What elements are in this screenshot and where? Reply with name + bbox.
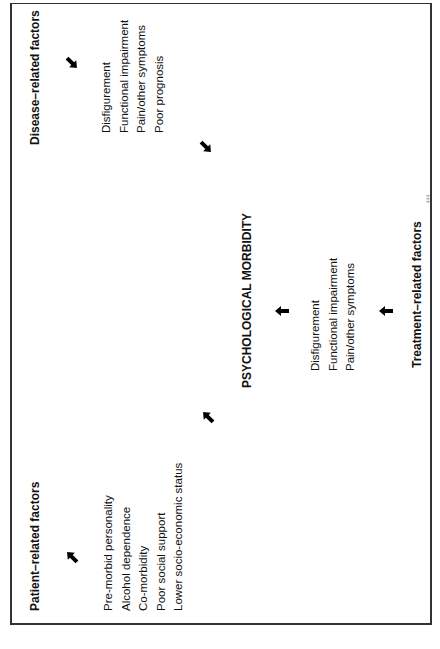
disease-factors-title: Disease–related factors bbox=[28, 10, 42, 145]
disease-factor-item: Pain/other symptoms bbox=[133, 20, 151, 133]
disease-factor-item: Disfigurement bbox=[98, 20, 116, 133]
disease-factors-list: Disfigurement Functional impairment Pain… bbox=[98, 20, 168, 133]
page-number: 444 bbox=[425, 195, 431, 203]
disease-factor-item: Functional impairment bbox=[116, 20, 134, 133]
patient-factor-item: Alcohol dependence bbox=[118, 463, 136, 611]
arrow-to-center-icon bbox=[274, 303, 290, 319]
treatment-factor-item: Pain/other symptoms bbox=[342, 258, 360, 371]
patient-factor-item: Pre-morbid personality bbox=[100, 463, 118, 611]
arrow-disease-to-center-icon bbox=[198, 139, 214, 155]
patient-factor-item: Poor social support bbox=[153, 463, 171, 611]
arrow-disease-down-icon bbox=[64, 55, 80, 71]
patient-factor-item: Lower socio-economic status bbox=[170, 463, 188, 611]
patient-factors-list: Pre-morbid personality Alcohol dependenc… bbox=[100, 463, 188, 611]
patient-factor-item: Co-morbidity bbox=[135, 463, 153, 611]
disease-factor-item: Poor prognosis bbox=[151, 20, 169, 133]
treatment-factor-item: Functional impairment bbox=[325, 258, 343, 371]
treatment-factor-item: Disfigurement bbox=[307, 258, 325, 371]
patient-factors-title: Patient–related factors bbox=[28, 482, 42, 611]
treatment-factors-title: Treatment–related factors bbox=[410, 221, 424, 368]
psychological-morbidity-title: PSYCHOLOGICAL MORBIDITY bbox=[240, 213, 254, 388]
treatment-factors-list: Disfigurement Functional impairment Pain… bbox=[307, 258, 360, 371]
arrow-patient-to-center-icon bbox=[200, 409, 216, 425]
arrow-treatment-up-icon bbox=[378, 303, 394, 319]
arrow-patient-down-icon bbox=[64, 549, 80, 565]
diagram-frame: Patient–related factors Pre-morbid perso… bbox=[10, 3, 432, 625]
